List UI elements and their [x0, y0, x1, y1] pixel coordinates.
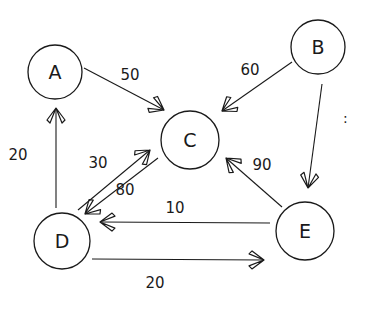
- node-label: E: [299, 220, 311, 242]
- edge-line: [92, 259, 264, 260]
- nodes-layer: ABCDE: [28, 20, 345, 269]
- node-label: A: [49, 61, 62, 83]
- edge-e-to-d: [100, 213, 270, 231]
- graph-diagram: ABCDE 5060203080102090 :: [0, 0, 366, 311]
- node-c: C: [161, 111, 219, 169]
- node-label: C: [183, 129, 196, 151]
- node-label: B: [311, 36, 324, 58]
- edge-b-to-e: [301, 84, 322, 188]
- stray-mark: :: [343, 110, 348, 126]
- edge-line: [100, 222, 270, 223]
- edge-weight-label: 30: [88, 154, 107, 172]
- edge-weight-label: 20: [8, 146, 27, 164]
- edge-d-to-a: [47, 108, 65, 208]
- edge-line: [308, 84, 322, 188]
- edge-weight-label: 10: [165, 199, 184, 217]
- edge-weight-label: 60: [240, 61, 259, 79]
- edge-weight-label: 90: [252, 156, 271, 174]
- graph-svg: ABCDE 5060203080102090 :: [0, 0, 366, 311]
- node-b: B: [291, 20, 345, 74]
- edge-d-to-e: [92, 251, 264, 269]
- node-a: A: [28, 45, 82, 99]
- edge-weight-label: 50: [120, 66, 139, 84]
- node-d: D: [34, 213, 90, 269]
- edge-weight-label: 20: [145, 274, 164, 292]
- node-e: E: [276, 202, 334, 260]
- arrowhead-icon: [148, 96, 164, 112]
- node-label: D: [55, 230, 70, 252]
- edge-weight-label: 80: [115, 181, 134, 199]
- annotations-layer: :: [343, 110, 348, 126]
